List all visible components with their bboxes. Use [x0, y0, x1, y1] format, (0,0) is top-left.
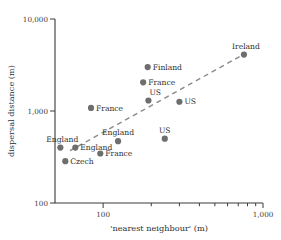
data-point-8[interactable]	[57, 145, 63, 151]
data-point-7[interactable]	[162, 136, 168, 142]
data-point-11[interactable]	[62, 158, 68, 164]
tick-and-title-labels-group: 10,0001,0001001001,000IrelandFinlandFran…	[6, 15, 274, 233]
y-tick-label-10000: 10,000	[23, 15, 49, 24]
data-point-label-10: France	[105, 149, 133, 158]
y-tick-label-1000: 1,000	[27, 107, 48, 116]
y-tick-label-100: 100	[34, 199, 48, 208]
data-point-5[interactable]	[88, 105, 94, 111]
data-point-label-5: France	[96, 104, 124, 113]
data-point-6[interactable]	[115, 138, 121, 144]
data-point-label-1: Finland	[153, 63, 182, 72]
x-tick-label-1000: 1,000	[253, 210, 274, 219]
data-point-label-4: US	[184, 97, 196, 106]
data-point-label-0: Ireland	[232, 42, 260, 51]
x-tick-label-100: 100	[96, 210, 110, 219]
data-point-label-3: US	[149, 88, 161, 97]
data-point-9[interactable]	[72, 145, 78, 151]
data-point-3[interactable]	[145, 97, 151, 103]
data-point-4[interactable]	[176, 99, 182, 105]
data-point-label-11: Czech	[70, 157, 94, 166]
data-point-label-2: France	[148, 78, 176, 87]
data-point-2[interactable]	[140, 79, 146, 85]
chart-figure: 10,0001,0001001001,000IrelandFinlandFran…	[0, 0, 281, 240]
data-point-label-7: US	[159, 126, 171, 135]
data-point-label-8: England	[46, 135, 78, 144]
y-axis-title: dispersal distance (m)	[6, 65, 16, 157]
data-point-label-6: England	[102, 128, 134, 137]
scatter-plot-canvas: 10,0001,0001001001,000IrelandFinlandFran…	[0, 0, 281, 240]
data-point-1[interactable]	[145, 64, 151, 70]
data-point-0[interactable]	[241, 52, 247, 58]
x-axis-title: 'nearest neighbour' (m)	[110, 223, 208, 233]
